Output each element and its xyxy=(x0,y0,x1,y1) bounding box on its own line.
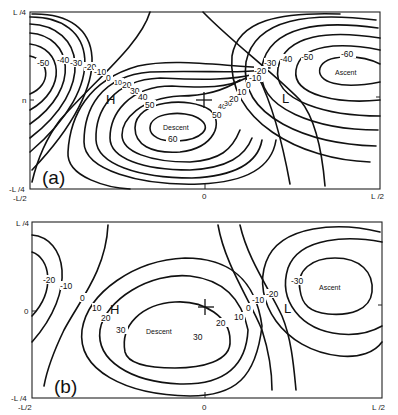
contour-label: 0 xyxy=(80,293,85,303)
contours-left-negative-b xyxy=(32,235,62,342)
contours-left-negative xyxy=(30,14,92,170)
contour-label: 20 xyxy=(216,318,226,328)
contour-label: 0 xyxy=(106,73,111,83)
low-pressure-marker: L xyxy=(284,301,291,316)
contour-label: 50 xyxy=(212,110,222,120)
y-axis-top-label: L /4 xyxy=(16,219,30,228)
contour-label: -40 xyxy=(57,55,70,65)
x-axis-right-label: L /2 xyxy=(371,192,385,201)
ascent-label: Ascent xyxy=(335,69,356,76)
contour-label: -60 xyxy=(341,49,354,59)
contour-figure: -50 -40 -30 -20 -10 0 10 20 30 40 50 60 xyxy=(0,0,398,415)
x-axis-mid-label: 0 xyxy=(202,403,207,412)
y-axis-mid-label: 0 xyxy=(24,307,29,316)
contour-label: -20 xyxy=(266,289,279,299)
contour-label: 30 xyxy=(193,332,203,342)
panel-label-b: (b) xyxy=(54,376,77,397)
panel-b: -20 -10 0 10 20 30 30 20 10 0 -10 -20 -3… xyxy=(11,219,386,412)
descent-label: Descent xyxy=(163,124,189,131)
x-axis-left-label: -L/2 xyxy=(13,194,27,203)
contour-label: 10 xyxy=(114,79,122,86)
ascent-label: Ascent xyxy=(319,284,340,291)
contours-right-negative-b xyxy=(263,227,382,357)
contour-label: 10 xyxy=(234,312,244,322)
contour-label: 60 xyxy=(168,134,178,144)
contour-label: -30 xyxy=(70,58,83,68)
y-axis-top-label: L /4 xyxy=(13,8,27,17)
contours-right-negative xyxy=(232,14,380,162)
contours-center-positive-b xyxy=(82,258,262,396)
contour-label: -50 xyxy=(37,58,50,68)
x-axis-mid-label: 0 xyxy=(202,192,207,201)
contour-label: -30 xyxy=(291,276,304,286)
contour-label: -20 xyxy=(43,275,56,285)
panel-label-a: (a) xyxy=(42,167,65,188)
contour-label: 50 xyxy=(145,100,155,110)
panel-b-frame xyxy=(32,222,382,398)
contour-label: -10 xyxy=(60,281,73,291)
y-axis-mid-label: n xyxy=(22,96,26,105)
contour-label: -40 xyxy=(280,54,293,64)
y-axis-bottom-label: -L /4 xyxy=(9,185,25,194)
high-pressure-marker: H xyxy=(110,302,119,317)
descent-label: Descent xyxy=(146,328,172,335)
contour-label: -30 xyxy=(264,58,277,68)
contours-transition xyxy=(203,12,325,186)
contour-label: -50 xyxy=(301,52,314,62)
contour-label: -10 xyxy=(94,67,107,77)
low-pressure-marker: L xyxy=(282,91,289,106)
panel-a: -50 -40 -30 -20 -10 0 10 20 30 40 50 60 xyxy=(9,8,385,203)
x-axis-right-label: L /2 xyxy=(372,403,386,412)
contour-label: 10 xyxy=(92,303,102,313)
contour-label: 0 xyxy=(246,303,251,313)
contour-label: 30 xyxy=(116,325,126,335)
high-pressure-marker: H xyxy=(106,92,115,107)
y-axis-bottom-label: -L /4 xyxy=(11,394,27,403)
x-axis-left-label: -L/2 xyxy=(18,403,32,412)
contour-label: -10 xyxy=(252,295,265,305)
origin-cross-icon xyxy=(198,299,214,315)
